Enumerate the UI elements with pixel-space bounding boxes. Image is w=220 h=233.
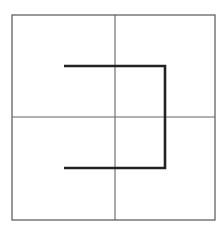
diagram-canvas [0,0,220,233]
